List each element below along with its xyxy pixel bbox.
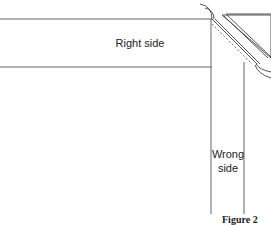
right-side-label: Right side (100, 36, 180, 50)
figure-caption: Figure 2 (222, 214, 258, 225)
binding-diagram (0, 0, 271, 225)
wrong-side-label-line2: side (211, 161, 245, 175)
wrong-side-label-line1: Wrong (211, 147, 245, 161)
